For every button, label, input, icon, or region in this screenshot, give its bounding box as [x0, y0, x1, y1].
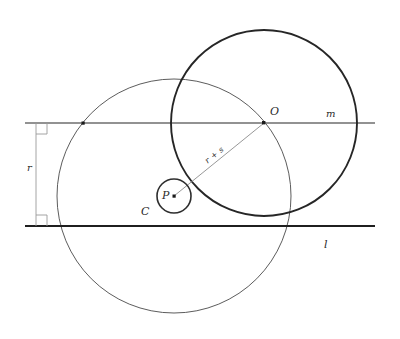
point-marker-left-intersection — [82, 122, 85, 125]
geometry-canvas: O m l r P C r + s — [0, 0, 400, 339]
label-line-m: m — [326, 108, 335, 119]
label-radius-sum: r + s — [203, 145, 226, 166]
label-point-P: P — [161, 189, 170, 202]
geometry-figure: O m l r P C r + s — [0, 0, 400, 339]
point-marker-O — [262, 121, 265, 124]
label-center-O: O — [270, 105, 279, 118]
label-distance-r: r — [27, 162, 33, 173]
right-angle-mark-top — [36, 123, 47, 134]
label-line-l: l — [324, 238, 328, 251]
point-marker-P — [173, 195, 176, 198]
right-angle-mark-bottom — [36, 215, 47, 226]
label-circle-C: C — [141, 205, 150, 218]
